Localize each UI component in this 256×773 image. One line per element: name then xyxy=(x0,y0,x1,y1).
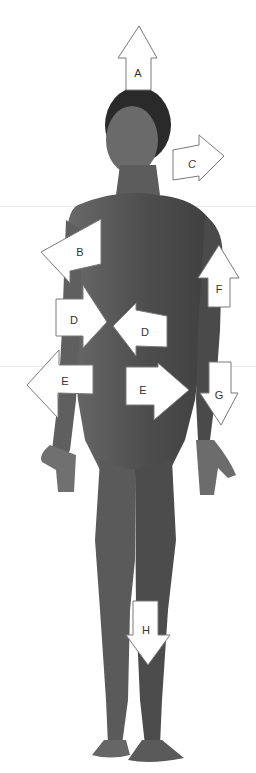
arrows-layer xyxy=(0,0,256,773)
arrow-label-h: H xyxy=(142,624,150,636)
anatomy-diagram: A B C D D E E F G H xyxy=(0,0,256,773)
arrow-f-icon xyxy=(198,245,239,307)
arrow-c-icon xyxy=(173,135,224,181)
arrow-label-a: A xyxy=(134,67,141,79)
arrow-b-icon xyxy=(41,219,101,283)
arrow-label-d-left: D xyxy=(141,326,149,338)
arrow-label-b: B xyxy=(76,246,83,258)
arrow-label-g: G xyxy=(215,389,224,401)
arrow-e-left-icon xyxy=(27,350,93,418)
arrow-label-e-right: E xyxy=(139,384,146,396)
arrow-d-right-icon xyxy=(56,285,107,348)
arrow-label-c: C xyxy=(188,158,196,170)
arrow-a-icon xyxy=(118,26,157,90)
arrow-label-f: F xyxy=(216,283,223,295)
arrow-label-e-left: E xyxy=(61,375,68,387)
arrow-label-d-right: D xyxy=(70,314,78,326)
arrow-e-right-icon xyxy=(126,363,189,420)
arrow-d-left-icon xyxy=(113,303,167,356)
